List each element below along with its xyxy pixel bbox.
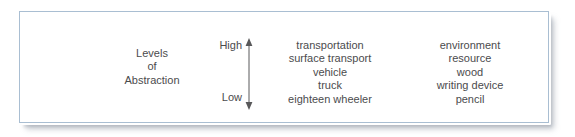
term-column-transportation: transportation surface transport vehicle… <box>260 39 400 106</box>
term-item: environment <box>400 39 540 52</box>
term-item: eighteen wheeler <box>260 93 400 106</box>
arrow-svg <box>243 38 255 110</box>
caption-line-2: of <box>92 60 212 73</box>
figure-content: Levels of Abstraction High Low <box>20 12 550 124</box>
term-column-environment: environment resource wood writing device… <box>400 39 540 106</box>
term-item: writing device <box>400 79 540 92</box>
figure-panel: Levels of Abstraction High Low <box>19 11 549 123</box>
term-item: transportation <box>260 39 400 52</box>
term-item: pencil <box>400 93 540 106</box>
scale-label-high: High <box>219 39 242 52</box>
term-columns: transportation surface transport vehicle… <box>260 39 540 106</box>
term-item: surface transport <box>260 52 400 65</box>
caption-line-1: Levels <box>92 47 212 60</box>
caption-line-3: Abstraction <box>92 74 212 87</box>
scale-label-low: Low <box>222 91 242 104</box>
term-item: resource <box>400 52 540 65</box>
levels-of-abstraction-caption: Levels of Abstraction <box>92 47 212 87</box>
double-headed-vertical-arrow-icon <box>243 38 255 110</box>
abstraction-scale-labels: High Low <box>196 39 242 104</box>
term-item: wood <box>400 66 540 79</box>
term-item: vehicle <box>260 66 400 79</box>
term-item: truck <box>260 79 400 92</box>
figure-root: Levels of Abstraction High Low <box>0 0 575 137</box>
